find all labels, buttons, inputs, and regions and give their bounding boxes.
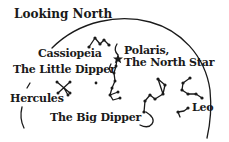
cassiopeia-lines — [89, 38, 109, 47]
label-big-dipper: The Big Dipper — [50, 112, 141, 123]
label-leo: Leo — [192, 102, 213, 113]
diagram-title: Looking North — [14, 8, 112, 20]
big-dipper-lines — [144, 79, 165, 112]
polaris-star-icon — [113, 54, 123, 63]
label-polaris: Polaris, — [124, 45, 169, 56]
star-map-diagram: Looking North Cassiopeia Polaris, The No… — [0, 0, 229, 142]
label-little-dipper: The Little Dipper — [13, 64, 116, 75]
label-cassiopeia: Cassiopeia — [38, 48, 102, 59]
label-hercules: Hercules — [10, 93, 64, 104]
sky-dome-arc-left — [21, 107, 24, 128]
label-north-star: The North Star — [124, 57, 214, 68]
